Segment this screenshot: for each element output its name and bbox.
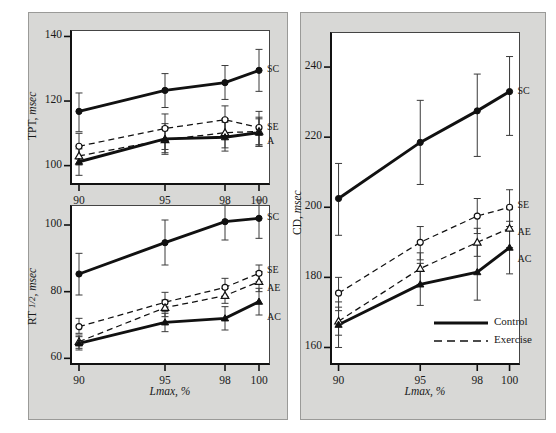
xtick-label: 90 (323, 374, 355, 386)
chart-cd-ylabel: CD, msec (291, 190, 303, 235)
legend-exercise-label: Exercise (494, 333, 532, 345)
figure-root: TPT, msec 100120140 909598100 SCSEA RT 1… (0, 0, 556, 433)
series-label-se: SE (518, 199, 530, 210)
ytick-label: 140 (24, 28, 62, 40)
chart-rt-xlabel: Lmax, % (100, 385, 240, 397)
series-label-ae: AE (518, 226, 531, 237)
ytick-label: 180 (284, 269, 322, 281)
series-label-ae: AE (267, 282, 280, 293)
series-label-ac: AC (267, 311, 281, 322)
xtick-label: 90 (63, 374, 95, 386)
series-label-se: SE (267, 264, 279, 275)
xtick-label: 100 (243, 374, 275, 386)
legend-swatches (432, 315, 502, 351)
chart-rt-canvas (70, 205, 270, 365)
series-label-sc: SC (267, 211, 279, 222)
series-label-se: SE (267, 121, 279, 132)
legend-control-label: Control (494, 315, 528, 327)
ytick-label: 240 (284, 59, 322, 71)
xtick-label: 100 (494, 374, 526, 386)
chart-tpt (70, 30, 270, 185)
chart-cd-xlabel: Lmax, % (355, 385, 495, 397)
ytick-label: 200 (284, 199, 322, 211)
ytick-label: 80 (24, 284, 62, 296)
ytick-label: 60 (24, 350, 62, 362)
series-label-ac: AC (518, 253, 532, 264)
ytick-label: 100 (24, 217, 62, 229)
ytick-label: 120 (24, 93, 62, 105)
ytick-label: 100 (24, 158, 62, 170)
chart-rt-ylabel: RT 1/2, msec (26, 268, 38, 325)
ytick-label: 220 (284, 129, 322, 141)
series-label-ae: A (267, 135, 274, 146)
chart-tpt-canvas (70, 30, 270, 185)
chart-rt (70, 205, 270, 365)
ytick-label: 160 (284, 339, 322, 351)
series-label-sc: SC (518, 85, 530, 96)
series-label-sc: SC (267, 63, 279, 74)
